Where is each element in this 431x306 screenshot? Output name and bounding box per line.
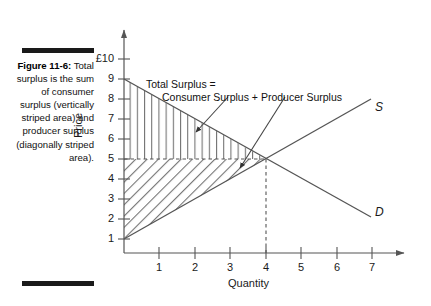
x-tick-label-7: 7 (364, 261, 380, 273)
y-tick-label-9: 9 (88, 72, 114, 84)
y-tick-label-8: 8 (88, 92, 114, 104)
annotation-line-2: Consumer Surplus + Producer Surplus (146, 91, 342, 104)
y-tick-label-7: 7 (88, 112, 114, 124)
x-tick-label-2: 2 (187, 261, 203, 273)
y-tick-label-10: £10 (88, 52, 114, 64)
y-tick-label-6: 6 (88, 132, 114, 144)
x-axis-title: Quantity (228, 277, 269, 289)
x-tick-label-5: 5 (293, 261, 309, 273)
demand-curve-label: D (375, 205, 384, 219)
x-tick-label-4: 4 (258, 261, 274, 273)
figure-container: Figure 11-6: Total surplus is the sum of… (0, 0, 431, 306)
y-axis-title: Price (72, 113, 84, 138)
total-surplus-annotation: Total Surplus = Consumer Surplus + Produ… (146, 78, 342, 104)
y-tick-label-5: 5 (88, 152, 114, 164)
supply-curve-label: S (375, 100, 383, 114)
supply-demand-chart: £10 9 8 7 6 5 4 3 2 1 1 2 3 4 5 6 7 Pric… (0, 0, 431, 306)
x-tick-label-1: 1 (151, 261, 167, 273)
y-tick-label-3: 3 (88, 192, 114, 204)
y-tick-label-2: 2 (88, 212, 114, 224)
x-tick-label-3: 3 (222, 261, 238, 273)
y-tick-label-1: 1 (88, 232, 114, 244)
annotation-line-1: Total Surplus = (146, 78, 342, 91)
x-tick-label-6: 6 (329, 261, 345, 273)
y-tick-label-4: 4 (88, 172, 114, 184)
